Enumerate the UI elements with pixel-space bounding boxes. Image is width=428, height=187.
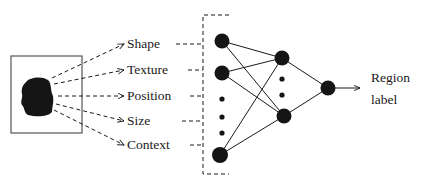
- feature-label-shape: Shape: [127, 37, 160, 51]
- arrow-texture: [54, 70, 124, 84]
- output-node: [321, 81, 336, 96]
- hidden-node: [275, 51, 290, 66]
- input-node: [215, 66, 230, 81]
- feature-connectors: [176, 44, 203, 145]
- ellipsis-dot: [279, 92, 284, 97]
- arrow-context: [54, 110, 124, 145]
- feature-label-size: Size: [127, 114, 150, 128]
- feature-label-position: Position: [127, 89, 171, 103]
- network-edges: [220, 41, 328, 155]
- arrow-shape: [52, 44, 124, 78]
- feature-arrows: [52, 44, 124, 145]
- ellipsis-dot: [279, 76, 284, 81]
- region-blob-icon: [21, 78, 53, 117]
- ellipsis-dot: [219, 96, 224, 101]
- diagram-canvas: [0, 0, 428, 187]
- feature-label-texture: Texture: [127, 63, 168, 77]
- ellipsis-dot: [219, 130, 224, 135]
- output-label-line1: Region: [371, 71, 410, 85]
- hidden-node: [277, 109, 292, 124]
- hidden-layer: [275, 51, 292, 124]
- arrow-size: [56, 104, 124, 121]
- output-label-line2: label: [371, 93, 397, 107]
- ellipsis-dot: [219, 114, 224, 119]
- feature-label-context: Context: [127, 138, 170, 152]
- input-node: [215, 34, 230, 49]
- input-node: [212, 147, 228, 163]
